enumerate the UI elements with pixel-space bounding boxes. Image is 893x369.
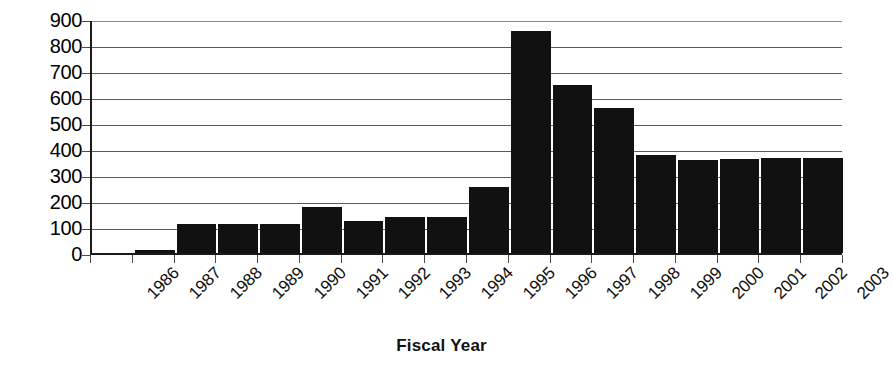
bar-1988 [177, 224, 217, 253]
bar-1989 [218, 224, 258, 253]
y-tick-label: 700 [2, 62, 82, 82]
x-tick-mark [299, 255, 300, 263]
bar-1987 [135, 250, 175, 253]
x-tick-mark [466, 255, 467, 263]
x-tick-label-1998: 1998 [645, 264, 684, 303]
bar-1995 [469, 187, 509, 253]
y-tick-label: 400 [2, 140, 82, 160]
y-tick-label: 600 [2, 88, 82, 108]
y-tick-label: 500 [2, 114, 82, 134]
x-tick-label-1993: 1993 [436, 264, 475, 303]
bar-2001 [720, 159, 760, 253]
bar-1996 [511, 31, 551, 253]
y-tick-label: 300 [2, 166, 82, 186]
y-tick-label: 200 [2, 192, 82, 212]
y-tick-mark [82, 21, 90, 22]
x-tick-mark [341, 255, 342, 263]
x-tick-mark [508, 255, 509, 263]
bar-1999 [636, 155, 676, 253]
x-tick-label-1991: 1991 [353, 264, 392, 303]
x-axis-title: Fiscal Year [0, 336, 883, 356]
x-tick-mark [842, 255, 843, 263]
x-tick-label-1988: 1988 [227, 264, 266, 303]
bar-2002 [761, 158, 801, 253]
y-tick-mark [82, 203, 90, 204]
x-tick-mark [800, 255, 801, 263]
x-tick-label-2000: 2000 [729, 264, 768, 303]
x-tick-label-1986: 1986 [144, 264, 183, 303]
x-tick-label-2002: 2002 [812, 264, 851, 303]
x-tick-label-1994: 1994 [478, 264, 517, 303]
x-tick-label-1995: 1995 [520, 264, 559, 303]
plot-area [90, 21, 842, 255]
y-tick-mark [82, 255, 90, 256]
x-tick-label-1989: 1989 [269, 264, 308, 303]
y-tick-mark [82, 73, 90, 74]
bar-1992 [344, 221, 384, 253]
y-axis-tick-labels: 9008007006005004003002001000 [0, 0, 82, 270]
x-tick-mark [174, 255, 175, 263]
x-tick-mark [382, 255, 383, 263]
x-tick-mark [758, 255, 759, 263]
y-tick-mark [82, 229, 90, 230]
x-axis-tick-marks [90, 255, 842, 264]
y-tick-label: 100 [2, 218, 82, 238]
x-tick-mark [424, 255, 425, 263]
y-tick-mark [82, 47, 90, 48]
x-tick-label-2001: 2001 [770, 264, 809, 303]
x-tick-mark [675, 255, 676, 263]
x-tick-label-1987: 1987 [186, 264, 225, 303]
x-tick-label-1996: 1996 [562, 264, 601, 303]
x-tick-mark [550, 255, 551, 263]
bar-1997 [553, 85, 593, 253]
x-axis-tick-labels: 1986198719881989199019911992199319941995… [90, 264, 842, 334]
x-tick-label-1992: 1992 [394, 264, 433, 303]
x-tick-label-1999: 1999 [687, 264, 726, 303]
bar-1994 [427, 217, 467, 253]
y-tick-mark [82, 125, 90, 126]
x-tick-mark [90, 255, 91, 263]
bar-1991 [302, 207, 342, 253]
y-tick-label: 0 [2, 244, 82, 264]
x-tick-mark [132, 255, 133, 263]
bars [92, 21, 842, 253]
x-tick-mark [633, 255, 634, 263]
y-tick-label: 800 [2, 36, 82, 56]
bar-2000 [678, 160, 718, 253]
x-tick-mark [257, 255, 258, 263]
bar-2003 [803, 158, 843, 253]
y-tick-mark [82, 177, 90, 178]
x-tick-mark [591, 255, 592, 263]
x-tick-label-1997: 1997 [603, 264, 642, 303]
x-tick-mark [215, 255, 216, 263]
y-tick-label: 900 [2, 10, 82, 30]
bar-1998 [594, 108, 634, 253]
y-tick-mark [82, 151, 90, 152]
bar-1990 [260, 224, 300, 253]
x-tick-label-2003: 2003 [854, 264, 893, 303]
x-tick-mark [717, 255, 718, 263]
bar-1993 [385, 217, 425, 253]
y-tick-mark [82, 99, 90, 100]
x-tick-label-1990: 1990 [311, 264, 350, 303]
